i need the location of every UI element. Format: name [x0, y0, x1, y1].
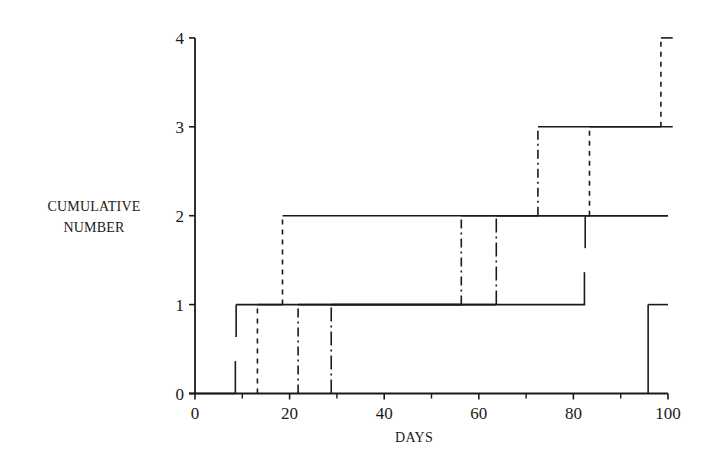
y-axis-label: CUMULATIVE NUMBER [34, 196, 154, 238]
y-axis-label-line-1: CUMULATIVE [34, 196, 154, 217]
x-axis-label: DAYS [395, 430, 433, 446]
y-axis-label-line-2: NUMBER [34, 217, 154, 238]
x-tick-label: 60 [470, 404, 487, 423]
x-tick-label: 100 [655, 404, 681, 423]
x-tick-label: 20 [281, 404, 298, 423]
x-tick-label: 0 [191, 404, 200, 423]
y-tick-label: 4 [176, 29, 185, 48]
series-dash-dot [298, 127, 673, 394]
axes: 01234020406080100 [176, 29, 681, 423]
data-series [195, 38, 673, 394]
y-tick-label: 3 [176, 118, 185, 137]
y-tick-label: 2 [176, 207, 185, 226]
series-solid-2 [648, 305, 668, 394]
x-tick-label: 40 [376, 404, 393, 423]
x-tick-label: 80 [565, 404, 582, 423]
y-tick-label: 1 [176, 296, 185, 315]
y-tick-label: 0 [176, 385, 185, 404]
